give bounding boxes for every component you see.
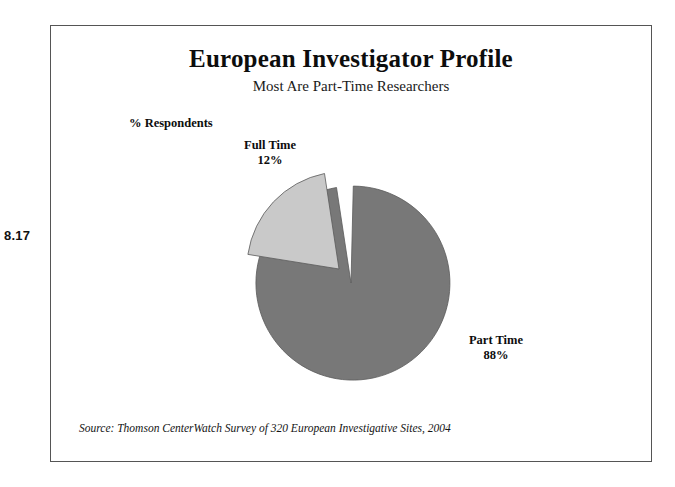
- pie-label-part-time-name: Part Time: [457, 333, 535, 348]
- source-note: Source: Thomson CenterWatch Survey of 32…: [79, 422, 451, 434]
- pie-label-part-time-value: 88%: [457, 348, 535, 363]
- pie-slice-full-time[interactable]: [248, 174, 339, 270]
- chart-frame: European Investigator Profile Most Are P…: [50, 25, 652, 462]
- pie-chart-svg: [51, 26, 653, 463]
- pie-label-part-time: Part Time 88%: [457, 333, 535, 363]
- figure-number: 8.17: [4, 228, 30, 243]
- pie-label-full-time-value: 12%: [233, 153, 307, 168]
- pie-label-full-time-name: Full Time: [233, 138, 307, 153]
- pie-chart: [51, 26, 653, 463]
- pie-label-full-time: Full Time 12%: [233, 138, 307, 168]
